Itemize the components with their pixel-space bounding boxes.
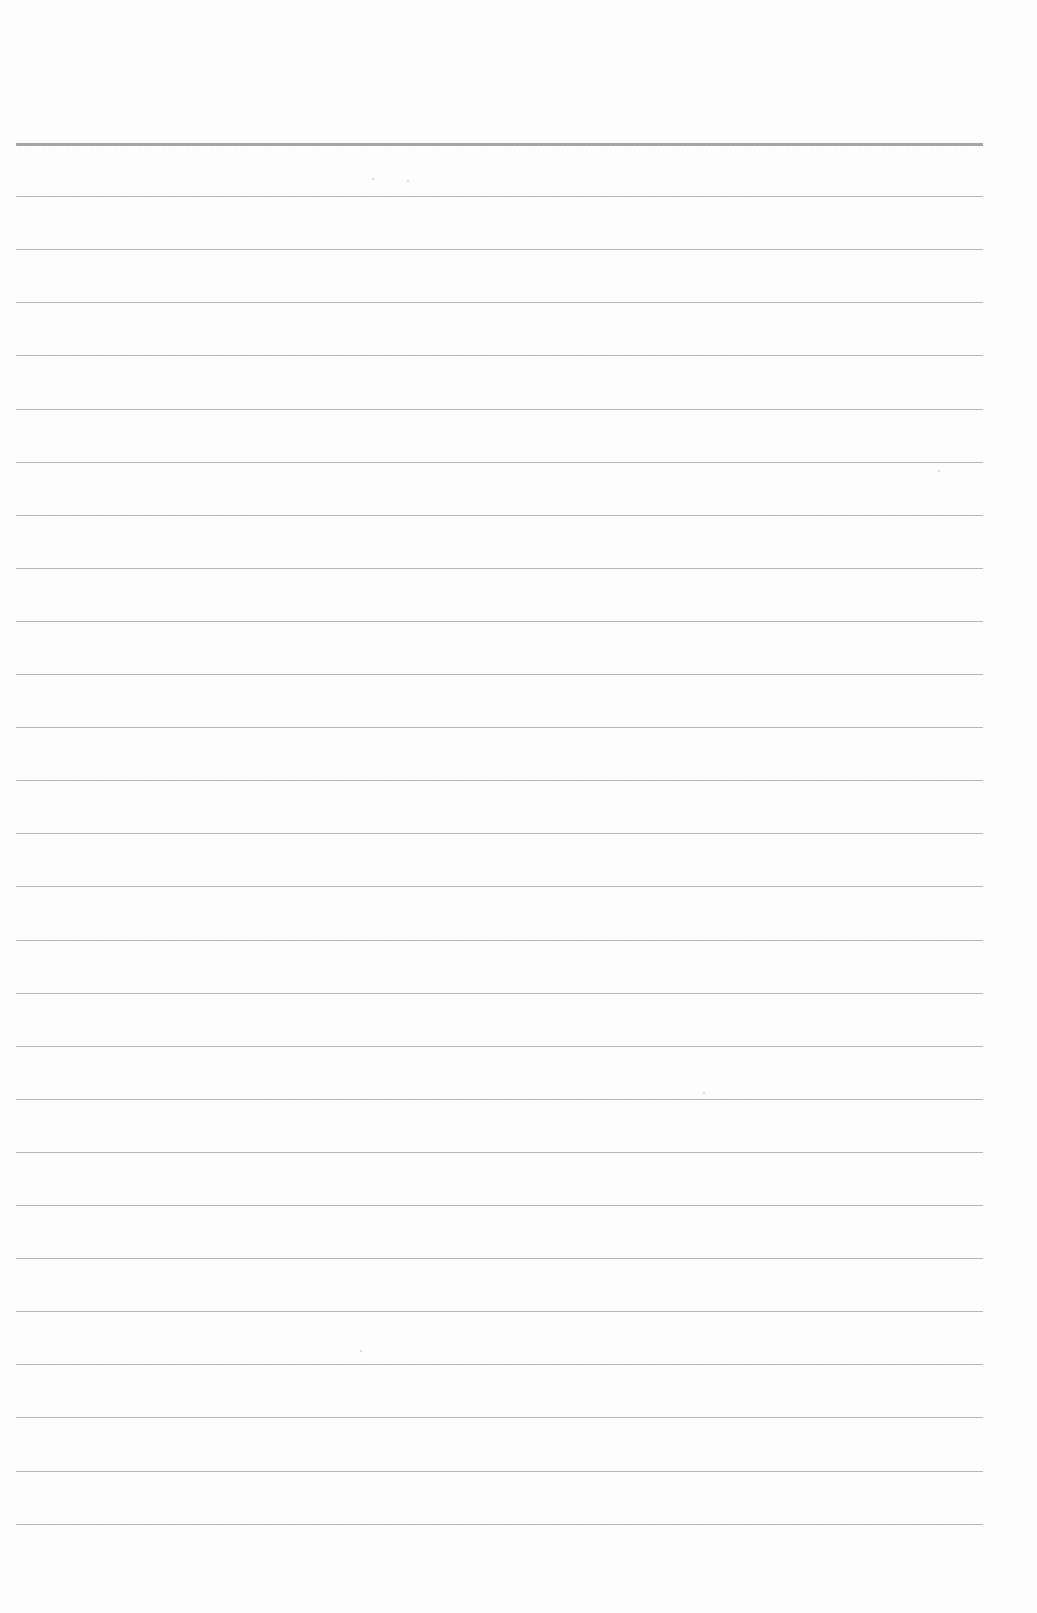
rule-line	[16, 993, 983, 994]
rule-line	[16, 727, 983, 728]
rule-line	[16, 1311, 983, 1312]
rule-line	[16, 780, 983, 781]
rule-line	[16, 462, 983, 463]
rule-line	[16, 1258, 983, 1259]
ruled-paper-page	[0, 0, 1037, 1613]
rule-line	[16, 1364, 983, 1365]
paper-speck	[703, 1092, 705, 1094]
rule-line	[16, 568, 983, 569]
rule-line	[16, 196, 983, 197]
rule-line	[16, 302, 983, 303]
rule-line	[16, 886, 983, 887]
paper-speck	[372, 178, 374, 180]
rule-line	[16, 1471, 983, 1472]
paper-speck	[360, 1350, 362, 1352]
top-rule-line	[16, 143, 983, 146]
paper-speck	[938, 470, 940, 472]
rule-line	[16, 1099, 983, 1100]
rule-line	[16, 1152, 983, 1153]
rule-line	[16, 674, 983, 675]
rule-line	[16, 1205, 983, 1206]
rule-line	[16, 515, 983, 516]
rule-line	[16, 409, 983, 410]
rule-line	[16, 249, 983, 250]
rule-line	[16, 833, 983, 834]
rule-line	[16, 940, 983, 941]
rule-line	[16, 355, 983, 356]
rule-line	[16, 1046, 983, 1047]
rule-line	[16, 1524, 983, 1525]
rule-line	[16, 621, 983, 622]
paper-speck	[407, 180, 409, 182]
rule-line	[16, 1417, 983, 1418]
